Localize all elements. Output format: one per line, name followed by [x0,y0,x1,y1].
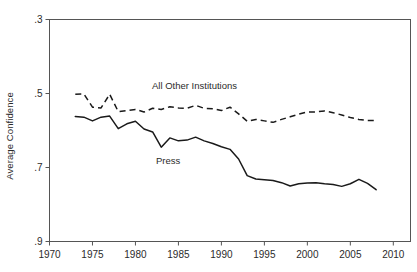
y-tick-label: .3 [34,14,43,25]
y-tick-label: .7 [34,162,43,173]
x-tick-label: 2010 [382,249,405,260]
y-tick-label: .9 [34,236,43,247]
x-tick-label: 1975 [81,249,104,260]
annotation-press: Press [156,155,181,166]
x-tick-label: 2005 [339,249,362,260]
x-tick-label: 2000 [296,249,319,260]
x-tick-label: 1985 [167,249,190,260]
annotation-all-other-institutions: All Other Institutions [152,80,237,91]
x-tick-label: 1980 [124,249,147,260]
chart-figure: .9.7.5.3 1970197519801985199019952000200… [0,0,417,272]
confidence-line-chart: .9.7.5.3 1970197519801985199019952000200… [0,0,417,272]
chart-background [0,0,417,272]
x-tick-label: 1990 [210,249,233,260]
x-tick-label: 1970 [38,249,61,260]
y-tick-label: .5 [34,88,43,99]
x-tick-label: 1995 [253,249,276,260]
